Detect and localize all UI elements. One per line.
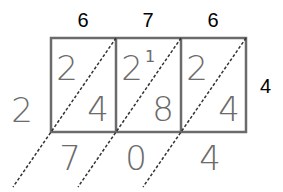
cell-2-tens: 2 [121, 48, 143, 88]
cell-2-ones: 8 [152, 89, 174, 129]
bottom-result-digit-1: 7 [59, 138, 81, 178]
left-result-digit: 2 [11, 90, 33, 130]
cell-1-tens: 2 [56, 48, 78, 88]
top-digit-2: 7 [142, 9, 153, 31]
cell-3-ones: 4 [218, 89, 240, 129]
right-digit: 4 [260, 75, 271, 97]
bottom-result-digit-3: 4 [199, 138, 221, 178]
lattice-diagram: 6 7 6 4 2 2 4 2 1 8 2 4 7 0 4 [0, 0, 283, 192]
top-digit-1: 6 [77, 9, 88, 31]
cell-2-carry: 1 [145, 47, 155, 66]
cell-3-tens: 2 [186, 48, 208, 88]
top-digit-3: 6 [207, 9, 218, 31]
cell-1-ones: 4 [87, 89, 109, 129]
bottom-result-digit-2: 0 [125, 138, 147, 178]
